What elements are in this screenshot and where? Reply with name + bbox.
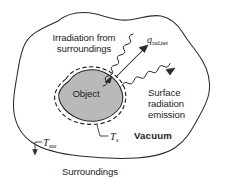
t-sur-subscript: sur xyxy=(49,142,56,149)
t-sur-leader-arrowhead xyxy=(33,150,38,156)
t-sur-label: Tsur xyxy=(43,137,56,148)
q-rad-net-subscript: rad,net xyxy=(152,39,168,46)
t-s-label: Ts xyxy=(110,131,118,142)
object-label: Object xyxy=(62,89,110,100)
t-sur-symbol: T xyxy=(43,137,49,148)
radiation-schematic-figure: Irradiation from surroundings qrad,net S… xyxy=(0,0,225,187)
vacuum-label: Vacuum xyxy=(134,131,172,142)
irradiation-label: Irradiation from surroundings xyxy=(38,33,130,55)
q-rad-net-label: qrad,net xyxy=(147,34,168,45)
t-s-symbol: T xyxy=(110,131,116,142)
surroundings-label: Surroundings xyxy=(62,167,118,178)
surface-emission-label: Surface radiation emission xyxy=(148,88,208,121)
